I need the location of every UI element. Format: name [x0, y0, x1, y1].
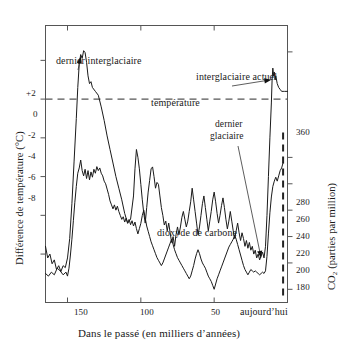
right-tick-label-200: 200 — [296, 266, 310, 275]
right-axis-title-suffix: (parties par million) — [326, 183, 337, 272]
right-axis-title-subscript: 2 — [331, 272, 339, 276]
annotation-dernier-interglaciaire: dernier interglaciaire — [56, 56, 142, 67]
right-tick-label-260: 260 — [296, 215, 310, 224]
left-axis-title: Différence de température (°C) — [14, 131, 25, 265]
annotation-dernier-glaciaire-line1: dernier — [215, 120, 243, 130]
chart-canvas — [0, 0, 344, 349]
x-axis-ticks — [68, 26, 215, 303]
right-axis-title: CO2 (parties par million) — [326, 183, 339, 290]
right-tick-label-280: 280 — [296, 198, 310, 207]
annotation-dernier-glaciaire-line2: glaciaire — [210, 132, 244, 142]
x-tick-label-100: 100 — [140, 308, 154, 317]
right-axis-title-prefix: CO — [326, 275, 337, 290]
left-tick-label-minus2: -2 — [28, 131, 36, 140]
right-tick-label-240: 240 — [296, 232, 310, 241]
x-tick-label-50: 50 — [211, 308, 220, 317]
x-axis-title: Dans le passé (en milliers d’années) — [78, 328, 240, 340]
left-tick-label-plus2: +2 — [26, 89, 36, 98]
right-tick-label-180: 180 — [296, 283, 310, 292]
left-tick-label-minus8: -8 — [28, 194, 36, 203]
left-tick-label-minus4: -4 — [28, 152, 36, 161]
series-label-dioxyde-de-carbone: dioxyde de carbone — [157, 228, 237, 239]
x-tick-label-today: aujourd’hui — [240, 307, 288, 318]
annotation-interglaciaire-actuel: interglaciaire actuel — [196, 72, 277, 83]
data-series-group — [46, 51, 288, 290]
left-axis-ticks — [41, 60, 46, 254]
plot-frame — [46, 26, 288, 303]
left-tick-label-0: 0 — [33, 110, 38, 119]
right-tick-label-360: 360 — [296, 128, 310, 137]
x-tick-label-150: 150 — [74, 308, 88, 317]
climate-chart-figure: Différence de température (°C) +2 0 -2 -… — [0, 0, 344, 349]
right-tick-label-220: 220 — [296, 249, 310, 258]
series-label-temperature: température — [151, 98, 200, 109]
right-axis-ticks — [288, 52, 293, 289]
left-tick-label-minus6: -6 — [28, 173, 36, 182]
